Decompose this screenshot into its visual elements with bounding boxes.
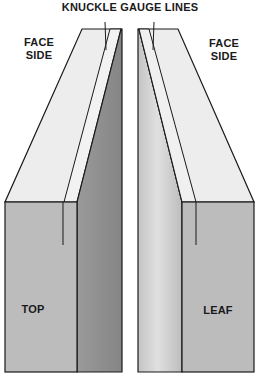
right-face-line1: FACE	[201, 37, 247, 50]
title-label: KNUCKLE GAUGE LINES	[60, 1, 200, 14]
left-face-side-label: FACE SIDE	[16, 36, 62, 62]
left-face-line1: FACE	[16, 36, 62, 49]
left-face-line2: SIDE	[16, 49, 62, 62]
top-piece	[5, 22, 122, 372]
leaf-piece	[138, 22, 254, 372]
right-face-line2: SIDE	[201, 50, 247, 63]
top-label: TOP	[18, 303, 48, 316]
right-face-side-label: FACE SIDE	[201, 37, 247, 63]
leaf-label: LEAF	[201, 304, 235, 317]
